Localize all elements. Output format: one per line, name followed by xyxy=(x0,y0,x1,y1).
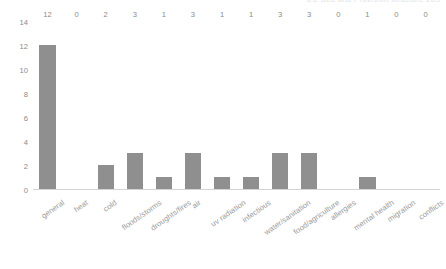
bar-value-label: 3 xyxy=(133,11,137,19)
x-label-slot: allergies xyxy=(324,192,353,269)
bar-value-label: 2 xyxy=(104,11,108,19)
bar-slot: 3 xyxy=(178,21,207,189)
bar[interactable]: 1 xyxy=(156,177,172,189)
bar-value-label: 12 xyxy=(43,11,51,19)
x-label-slot: droughts/fires xyxy=(149,192,178,269)
y-axis-tick-label: 10 xyxy=(20,66,28,75)
bar-value-label: 1 xyxy=(220,11,224,19)
bar[interactable]: 1 xyxy=(359,177,375,189)
x-label-slot: heat xyxy=(62,192,91,269)
bar-slot: 3 xyxy=(120,21,149,189)
x-label-slot: cold xyxy=(91,192,120,269)
x-label-slot: air xyxy=(178,192,207,269)
bar-value-label: 3 xyxy=(191,11,195,19)
x-axis-label-air: air xyxy=(190,198,202,210)
bar-slot: 1 xyxy=(207,21,236,189)
x-axis-label-conflicts: conflicts xyxy=(417,198,445,222)
x-label-slot: food/agriculture xyxy=(295,192,324,269)
y-axis-tick-label: 14 xyxy=(20,18,28,27)
bar[interactable]: 12 xyxy=(39,45,55,189)
y-axis-tick-label: 8 xyxy=(24,90,28,99)
bar-value-label: 3 xyxy=(278,11,282,19)
bar-slot: 0 xyxy=(382,21,411,189)
bar[interactable]: 3 xyxy=(185,153,201,189)
x-axis-category-labels: generalheatcoldfloods/stormsdroughts/fir… xyxy=(33,192,440,269)
bar-slot: 0 xyxy=(62,21,91,189)
bar-slot: 1 xyxy=(353,21,382,189)
bar[interactable]: 3 xyxy=(127,153,143,189)
x-label-slot: general xyxy=(33,192,62,269)
bar[interactable]: 1 xyxy=(214,177,230,189)
bar-value-label: 0 xyxy=(423,11,427,19)
bar[interactable]: 2 xyxy=(98,165,114,189)
x-label-slot: water/sanitation xyxy=(266,192,295,269)
bar-slot: 0 xyxy=(324,21,353,189)
y-axis-tick-label: 6 xyxy=(24,114,28,123)
bar-slot: 0 xyxy=(411,21,440,189)
bar-value-label: 1 xyxy=(365,11,369,19)
x-label-slot: migration xyxy=(382,192,411,269)
x-label-slot: floods/storms xyxy=(120,192,149,269)
bar-value-label: 0 xyxy=(394,11,398,19)
bar-chart-figure: 6.2 Bed and Provision structure 203 0246… xyxy=(0,0,446,269)
x-label-slot: mental health xyxy=(353,192,382,269)
y-axis-tick-label: 4 xyxy=(24,138,28,147)
bar-value-label: 0 xyxy=(336,11,340,19)
y-axis-tick-label: 0 xyxy=(24,186,28,195)
bar[interactable]: 3 xyxy=(301,153,317,189)
x-label-slot: uv radiation xyxy=(207,192,236,269)
bar-slot: 1 xyxy=(149,21,178,189)
bar-series: 120231311330100 xyxy=(33,21,440,189)
bar-slot: 3 xyxy=(295,21,324,189)
bar[interactable]: 3 xyxy=(272,153,288,189)
x-axis-line xyxy=(33,189,440,190)
bar-slot: 12 xyxy=(33,21,62,189)
page-header-text: 6.2 Bed and Provision structure 203 xyxy=(307,0,440,4)
x-axis-label-heat: heat xyxy=(72,198,90,214)
bar-value-label: 1 xyxy=(249,11,253,19)
bar-value-label: 0 xyxy=(74,11,78,19)
bar-slot: 1 xyxy=(237,21,266,189)
bar-value-label: 1 xyxy=(162,11,166,19)
x-axis-label-cold: cold xyxy=(101,198,118,214)
bar[interactable]: 1 xyxy=(243,177,259,189)
y-axis-tick-label: 2 xyxy=(24,162,28,171)
y-axis-tick-label: 12 xyxy=(20,42,28,51)
bar-slot: 2 xyxy=(91,21,120,189)
x-label-slot: infectious xyxy=(237,192,266,269)
bar-slot: 3 xyxy=(266,21,295,189)
bar-value-label: 3 xyxy=(307,11,311,19)
x-label-slot: conflicts xyxy=(411,192,440,269)
plot-area: 02468101214 120231311330100 xyxy=(33,22,440,190)
